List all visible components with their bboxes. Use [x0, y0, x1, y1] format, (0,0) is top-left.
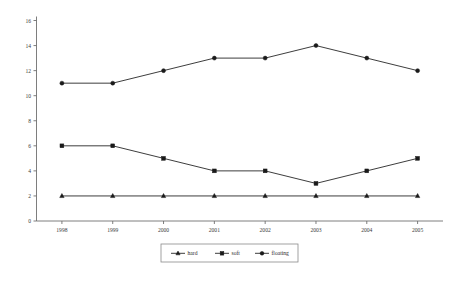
data-point-marker	[263, 56, 267, 60]
legend-label: hard	[188, 250, 198, 256]
data-point-marker	[162, 156, 166, 160]
y-axis-tick-label: 0	[28, 218, 31, 224]
x-axis-tick-label: 2005	[412, 227, 423, 233]
data-point-marker	[416, 156, 420, 160]
y-axis-tick-label: 2	[28, 193, 31, 199]
series-floating	[60, 44, 420, 86]
data-point-marker	[220, 251, 224, 255]
data-point-marker	[263, 169, 267, 173]
series-layer	[60, 44, 420, 198]
data-point-marker	[314, 44, 318, 48]
legend-label: floating	[272, 250, 290, 256]
x-axis-tick-label: 2001	[209, 227, 220, 233]
y-axis-tick-label: 8	[28, 118, 31, 124]
y-axis-tick-label: 12	[25, 68, 31, 74]
data-point-marker	[314, 182, 318, 186]
data-point-marker	[416, 69, 420, 73]
data-point-marker	[111, 81, 115, 85]
chart-page: 0246810121416 19981999200020012002200320…	[0, 0, 455, 281]
x-axis-tick-label: 2002	[260, 227, 271, 233]
data-point-marker	[365, 169, 369, 173]
y-axis-tick-label: 6	[28, 143, 31, 149]
x-axis-tick-label: 1999	[107, 227, 118, 233]
data-point-marker	[162, 69, 166, 73]
x-axis-tick-label: 2003	[310, 227, 321, 233]
x-axis: 19981999200020012002200320042005	[37, 221, 444, 233]
data-point-marker	[212, 56, 216, 60]
chart-legend: hardsoftfloating	[161, 244, 298, 262]
y-axis-tick-label: 14	[25, 43, 31, 49]
x-axis-tick-label: 2004	[361, 227, 372, 233]
data-point-marker	[260, 251, 264, 255]
x-axis-tick-label: 1998	[56, 227, 67, 233]
x-axis-tick-label: 2000	[158, 227, 169, 233]
series-line-soft	[62, 146, 418, 184]
data-point-marker	[212, 169, 216, 173]
line-chart: 0246810121416 19981999200020012002200320…	[0, 0, 455, 281]
series-soft	[60, 144, 419, 185]
y-axis-tick-label: 4	[28, 168, 31, 174]
y-axis-tick-label: 10	[25, 93, 31, 99]
data-point-marker	[365, 56, 369, 60]
y-axis: 0246810121416	[25, 17, 36, 225]
data-point-marker	[60, 144, 64, 148]
data-point-marker	[111, 144, 115, 148]
series-hard	[60, 194, 420, 198]
y-axis-tick-label: 16	[25, 18, 31, 24]
data-point-marker	[60, 81, 64, 85]
series-line-floating	[62, 46, 418, 84]
legend-label: soft	[232, 250, 241, 256]
